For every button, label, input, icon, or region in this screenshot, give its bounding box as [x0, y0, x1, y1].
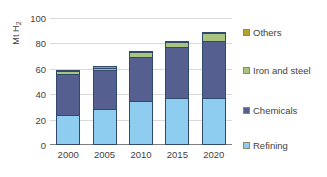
bar-column [56, 18, 80, 145]
legend-swatch-icon [243, 107, 250, 114]
legend-swatch-icon [243, 29, 250, 36]
legend-swatch-icon [243, 142, 250, 149]
bar-segment [165, 47, 189, 98]
chart-legend: OthersIron and steelChemicalsRefining [243, 18, 327, 145]
bar-segment [56, 115, 80, 145]
bar-segment [93, 70, 117, 109]
bar-segment [202, 98, 226, 145]
bar-segment [165, 98, 189, 145]
legend-item-others[interactable]: Others [243, 27, 282, 38]
y-axis-tick-label: 80 [4, 38, 46, 49]
hydrogen-demand-stacked-bar-chart: Mt H2 020406080100 20002005201020152020 … [0, 0, 327, 177]
y-axis-tick-label: 100 [4, 13, 46, 24]
bar-segment [202, 41, 226, 98]
x-axis-tick-label: 2015 [160, 149, 194, 160]
bar-segment [129, 101, 153, 145]
x-axis-tick-label: 2000 [51, 149, 85, 160]
bar-column [202, 18, 226, 145]
legend-item-chemicals[interactable]: Chemicals [243, 105, 297, 116]
y-axis-tick-label: 40 [4, 89, 46, 100]
plot-area [50, 18, 232, 145]
x-axis-tick-label: 2005 [88, 149, 122, 160]
bar-segment [202, 33, 226, 41]
y-axis-tick-label: 60 [4, 63, 46, 74]
y-axis-tick-label: 0 [4, 140, 46, 151]
x-axis-tick-label: 2010 [124, 149, 158, 160]
bar-column [165, 18, 189, 145]
legend-swatch-icon [243, 67, 250, 74]
y-axis-tick-labels: 020406080100 [0, 18, 46, 145]
x-axis-tick-label: 2020 [197, 149, 231, 160]
bar-segment [56, 74, 80, 115]
legend-label: Iron and steel [253, 65, 311, 76]
legend-label: Chemicals [253, 105, 297, 116]
bar-column [93, 18, 117, 145]
legend-item-refining[interactable]: Refining [243, 140, 288, 151]
bar-column [129, 18, 153, 145]
legend-label: Others [253, 27, 282, 38]
legend-item-iron-and-steel[interactable]: Iron and steel [243, 65, 311, 76]
bar-group [50, 18, 232, 145]
legend-label: Refining [253, 140, 288, 151]
bar-segment [93, 109, 117, 145]
bar-segment [129, 57, 153, 100]
y-axis-tick-label: 20 [4, 114, 46, 125]
x-axis-tick-labels: 20002005201020152020 [50, 149, 232, 160]
